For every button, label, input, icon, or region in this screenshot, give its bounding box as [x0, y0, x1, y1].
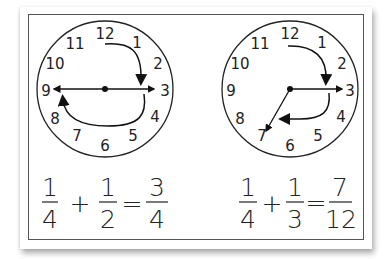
fraction-numerator: 1 — [240, 173, 256, 202]
fraction-numerator: 3 — [149, 173, 165, 202]
clock-number: 6 — [100, 137, 110, 155]
plus-sign: + — [70, 189, 91, 218]
clock-number: 8 — [235, 110, 245, 128]
clock-center — [287, 86, 293, 92]
clock-number: 11 — [250, 35, 269, 53]
clock-right: 12 1 2 3 4 5 6 7 8 9 10 11 — [222, 21, 358, 157]
equals-sign: = — [306, 188, 327, 217]
fraction-numerator: 1 — [287, 173, 303, 202]
fraction-numerator: 1 — [100, 173, 116, 202]
clock-number: 5 — [313, 127, 323, 145]
clock-number: 11 — [65, 35, 84, 53]
clock-number: 8 — [50, 110, 60, 128]
fraction-numerator: 7 — [332, 173, 348, 202]
clock-number: 6 — [285, 137, 295, 155]
clock-number: 1 — [132, 34, 142, 52]
fraction-denominator: 12 — [325, 205, 357, 234]
clock-hand-to-7 — [266, 89, 290, 131]
clock-number: 7 — [72, 127, 82, 145]
arc-half-icon — [63, 94, 145, 126]
clock-number: 1 — [317, 34, 327, 52]
fraction-denominator: 4 — [42, 205, 58, 234]
fraction-numerator: 1 — [42, 173, 58, 202]
fraction-denominator: 2 — [100, 205, 116, 234]
clock-number: 4 — [150, 108, 160, 126]
clock-left: 12 1 2 3 4 5 6 7 8 9 10 11 — [37, 21, 173, 157]
clock-number: 2 — [337, 55, 347, 73]
equation-left: 1 4 + 1 2 = 3 4 — [42, 173, 168, 234]
fraction-denominator: 4 — [149, 205, 165, 234]
clock-number: 10 — [230, 55, 249, 73]
clock-number: 3 — [160, 82, 170, 100]
clock-number: 3 — [345, 82, 355, 100]
clock-center — [102, 86, 108, 92]
fraction-clocks-diagram: 12 1 2 3 4 5 6 7 8 9 10 11 12 1 2 3 4 — [0, 0, 387, 259]
fraction-denominator: 3 — [287, 205, 303, 234]
fraction-denominator: 4 — [240, 205, 256, 234]
clock-number: 5 — [128, 127, 138, 145]
arc-third-icon — [284, 93, 329, 119]
clock-number: 2 — [153, 55, 163, 73]
clock-number: 4 — [336, 108, 346, 126]
clock-number: 12 — [95, 25, 114, 43]
clock-number: 9 — [226, 82, 236, 100]
clock-number: 7 — [257, 127, 267, 145]
plus-sign: + — [262, 189, 283, 218]
equals-sign: = — [122, 189, 143, 218]
equation-right: 1 4 + 1 3 = 7 12 — [239, 173, 357, 234]
clock-number: 9 — [41, 82, 51, 100]
clock-number: 10 — [45, 55, 64, 73]
clock-number: 12 — [280, 25, 299, 43]
